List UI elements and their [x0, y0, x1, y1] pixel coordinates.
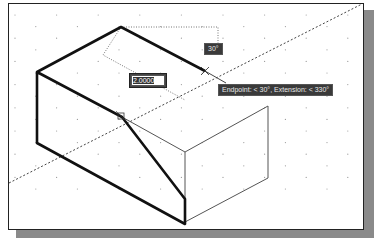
hidden-box-edges: [122, 106, 268, 222]
length-value[interactable]: 2.0000: [133, 77, 154, 84]
osnap-tooltip: Endpoint: < 30°, Extension: < 330°: [218, 84, 333, 96]
rubberband-line: [205, 71, 226, 83]
angle-tooltip: 30°: [204, 43, 223, 55]
wedge-outline[interactable]: [37, 27, 205, 224]
grid-dots: [14, 14, 348, 189]
length-input[interactable]: 2.0000: [129, 73, 167, 88]
drawing-canvas[interactable]: [0, 0, 378, 241]
